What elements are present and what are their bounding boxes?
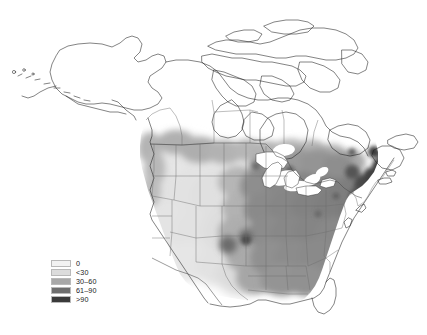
legend-item-4[interactable]: >90 <box>51 295 143 304</box>
legend-item-0[interactable]: 0 <box>51 259 143 268</box>
legend-label-2: 30–60 <box>76 277 97 286</box>
legend-item-2[interactable]: 30–60 <box>51 277 143 286</box>
legend-swatch-3 <box>51 287 71 295</box>
legend-label-4: >90 <box>76 295 89 304</box>
legend-swatch-0 <box>51 260 71 268</box>
legend-label-0: 0 <box>76 259 80 268</box>
legend-label-1: <30 <box>76 268 89 277</box>
legend-item-3[interactable]: 61–90 <box>51 286 143 295</box>
legend-label-3: 61–90 <box>76 286 97 295</box>
legend-swatch-2 <box>51 278 71 286</box>
legend-swatch-1 <box>51 269 71 277</box>
legend-swatch-4 <box>51 296 71 304</box>
density-legend: 0 <30 30–60 61–90 >90 <box>51 259 143 304</box>
legend-item-1[interactable]: <30 <box>51 268 143 277</box>
density-map-figure: 0 <30 30–60 61–90 >90 <box>0 0 427 335</box>
